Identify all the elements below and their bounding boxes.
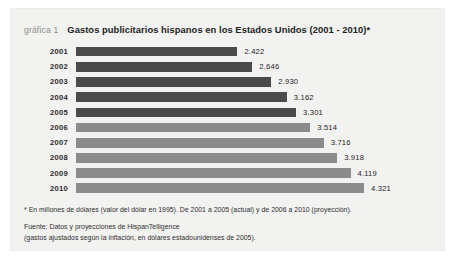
bar-year-label: 2008 (24, 153, 68, 162)
bar-value-label: 3.162 (294, 93, 314, 102)
footnote-text: * En millones de dólares (valor del dóla… (24, 206, 435, 213)
bar-value-label: 3.716 (331, 138, 351, 147)
bar-track: 3.918 (76, 150, 439, 165)
bar-year-label: 2009 (24, 169, 68, 178)
bar-value-label: 2.646 (259, 62, 279, 71)
bar-2004 (76, 92, 287, 102)
bar-value-label: 3.918 (344, 153, 364, 162)
bar-2003 (76, 77, 271, 87)
source-line-primary: Fuente: Datos y proyecciones de HispanTe… (24, 222, 435, 233)
bar-value-label: 4.119 (358, 169, 377, 178)
bar-year-label: 2002 (24, 62, 68, 71)
bar-row: 20073.716 (10, 135, 445, 150)
bar-value-label: 3.514 (317, 123, 337, 132)
bar-year-label: 2010 (24, 184, 68, 193)
bar-track: 3.301 (76, 105, 439, 120)
bar-track: 3.162 (76, 90, 439, 105)
bar-year-label: 2003 (24, 77, 68, 86)
chart-title: Gastos publicitarios hispanos en los Est… (67, 24, 370, 35)
bar-track: 2.422 (76, 44, 439, 59)
bar-chart: 20012.42220022.64620032.93020043.1622005… (10, 44, 445, 196)
bar-track: 4.321 (76, 181, 439, 196)
bar-track: 4.119 (76, 166, 439, 181)
bar-value-label: 3.301 (303, 108, 323, 117)
bar-row: 20022.646 (10, 59, 445, 74)
bar-row: 20104.321 (10, 181, 445, 196)
chart-header: gráfica 1 Gastos publicitarios hispanos … (24, 24, 435, 35)
bar-row: 20083.918 (10, 150, 445, 165)
bar-year-label: 2004 (24, 93, 68, 102)
bar-year-label: 2001 (24, 47, 68, 56)
bar-row: 20012.422 (10, 44, 445, 59)
source-block: Fuente: Datos y proyecciones de HispanTe… (24, 222, 435, 243)
bar-year-label: 2007 (24, 138, 68, 147)
bar-2006 (76, 123, 310, 133)
bar-2005 (76, 108, 296, 118)
bar-2001 (76, 47, 237, 57)
bar-2009 (76, 168, 351, 178)
figure-number-label: gráfica 1 (24, 25, 58, 35)
bar-2008 (76, 153, 337, 163)
bar-value-label: 4.321 (371, 184, 391, 193)
bar-year-label: 2005 (24, 108, 68, 117)
figure-panel: gráfica 1 Gastos publicitarios hispanos … (10, 8, 445, 251)
bar-track: 3.514 (76, 120, 439, 135)
notes-region: * En millones de dólares (valor del dóla… (24, 206, 435, 243)
bar-row: 20063.514 (10, 120, 445, 135)
bar-row: 20043.162 (10, 90, 445, 105)
bar-2007 (76, 138, 324, 148)
bar-2002 (76, 62, 252, 72)
source-line-secondary: (gastos ajustados según la inflación, en… (24, 233, 435, 244)
bar-track: 2.646 (76, 59, 439, 74)
bar-track: 2.930 (76, 74, 439, 89)
bar-year-label: 2006 (24, 123, 68, 132)
bar-row: 20094.119 (10, 166, 445, 181)
bar-value-label: 2.422 (244, 47, 264, 56)
bar-row: 20053.301 (10, 105, 445, 120)
bar-2010 (76, 183, 364, 193)
bar-track: 3.716 (76, 135, 439, 150)
bar-row: 20032.930 (10, 74, 445, 89)
bar-value-label: 2.930 (278, 77, 298, 86)
